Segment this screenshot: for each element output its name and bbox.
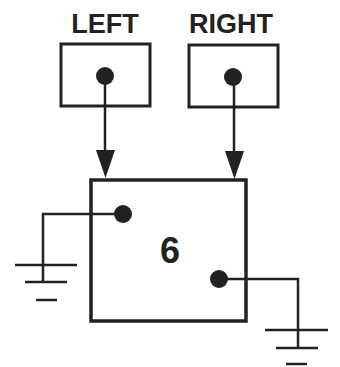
left-child-wire — [43, 214, 123, 282]
right-arrowhead-icon — [225, 151, 244, 179]
left-child-ground — [15, 205, 132, 300]
node-value: 6 — [160, 230, 180, 271]
right-pointer-label: RIGHT — [189, 9, 274, 39]
linked-node-diagram: LEFT RIGHT 6 — [0, 0, 340, 367]
left-arrowhead-icon — [96, 150, 115, 178]
main-node: 6 — [91, 180, 246, 321]
left-pointer-box — [61, 44, 150, 178]
right-child-wire — [219, 279, 298, 348]
left-pointer-label: LEFT — [71, 9, 139, 39]
right-pointer-box — [189, 45, 278, 179]
right-child-ground — [210, 270, 328, 364]
